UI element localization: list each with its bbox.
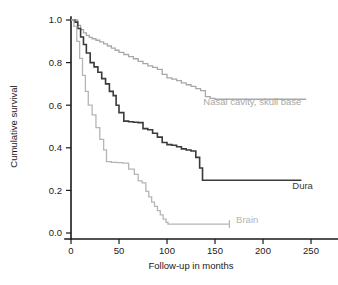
x-axis-ticks: 050100150200250 bbox=[68, 239, 319, 256]
survival-curve-nasal-cavity-skull-base bbox=[71, 20, 306, 99]
series-label-nasal-cavity-skull-base: Nasal cavity, skull base bbox=[203, 96, 301, 107]
x-tick-label: 150 bbox=[207, 245, 223, 256]
y-tick-label: 0.2 bbox=[49, 185, 62, 196]
y-tick-label: 0.8 bbox=[49, 57, 62, 68]
y-tick-label: 1.0 bbox=[49, 14, 62, 25]
survival-chart-figure: 0.00.20.40.60.81.0 050100150200250 Nasal… bbox=[0, 0, 338, 285]
y-tick-label: 0.4 bbox=[49, 142, 62, 153]
y-axis-title: Cumulative survival bbox=[8, 85, 19, 167]
kaplan-meier-plot: 0.00.20.40.60.81.0 050100150200250 Nasal… bbox=[0, 0, 338, 285]
y-axis-ticks: 0.00.20.40.60.81.0 bbox=[49, 14, 71, 238]
x-tick-label: 0 bbox=[68, 245, 73, 256]
survival-curve-brain bbox=[71, 20, 229, 224]
x-tick-label: 50 bbox=[114, 245, 125, 256]
y-tick-label: 0.0 bbox=[49, 227, 62, 238]
series-labels: Nasal cavity, skull baseDuraBrain bbox=[203, 96, 313, 225]
x-tick-label: 200 bbox=[255, 245, 271, 256]
x-tick-label: 250 bbox=[303, 245, 319, 256]
x-axis-title: Follow-up in months bbox=[148, 260, 233, 271]
series-label-brain: Brain bbox=[236, 214, 258, 225]
survival-curves bbox=[71, 20, 306, 228]
y-tick-label: 0.6 bbox=[49, 100, 62, 111]
series-label-dura: Dura bbox=[292, 180, 313, 191]
x-tick-label: 100 bbox=[159, 245, 175, 256]
